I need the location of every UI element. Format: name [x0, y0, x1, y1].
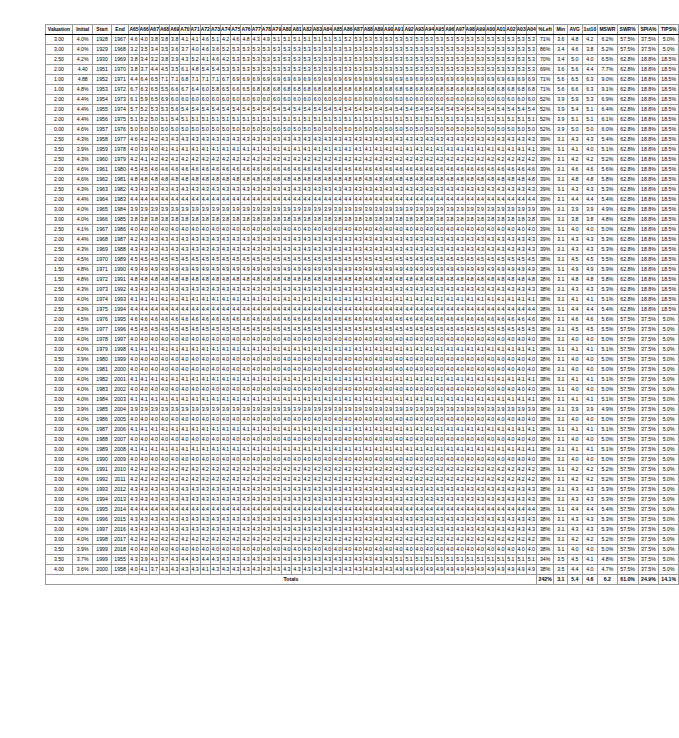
cell-age-a04[interactable]: 4.0: [526, 355, 536, 365]
cell-age-a01[interactable]: 4.1: [496, 145, 506, 155]
cell-age-a71[interactable]: 4.1: [190, 445, 200, 455]
cell-age-a85[interactable]: 6.0: [333, 95, 343, 105]
cell-age-a95[interactable]: 4.8: [435, 175, 445, 185]
cell-age-a71[interactable]: 4.0: [190, 385, 200, 395]
cell-age-a02[interactable]: 4.4: [506, 305, 516, 315]
cell-age-a66[interactable]: 4.0: [139, 545, 149, 555]
cell-age-a78[interactable]: 4.1: [261, 345, 271, 355]
cell-age-a71[interactable]: 4.4: [190, 305, 200, 315]
cell-avg[interactable]: 5.0: [568, 125, 582, 135]
cell-min[interactable]: 3.4: [554, 55, 568, 65]
cell-age-a72[interactable]: 4.1: [200, 145, 210, 155]
cell-age-a71[interactable]: 4.2: [190, 475, 200, 485]
cell-age-a95[interactable]: 3.8: [435, 215, 445, 225]
cell-age-a77[interactable]: 5.0: [251, 125, 261, 135]
cell-age-a97[interactable]: 6.9: [455, 75, 465, 85]
cell-age-a70[interactable]: 4.6: [180, 165, 190, 175]
cell-age-a65[interactable]: 4.2: [129, 155, 139, 165]
cell-age-a70[interactable]: 4.2: [180, 475, 190, 485]
cell-age-a02[interactable]: 5.3: [506, 65, 516, 75]
cell-age-a95[interactable]: 4.0: [435, 455, 445, 465]
cell-age-a03[interactable]: 4.6: [516, 165, 526, 175]
cell-end-year[interactable]: 2015: [111, 515, 129, 525]
cell-age-a75[interactable]: 5.3: [231, 65, 241, 75]
cell-age-a97[interactable]: 4.2: [455, 535, 465, 545]
cell-age-a02[interactable]: 5.3: [506, 55, 516, 65]
cell-age-a88[interactable]: 6.8: [363, 85, 373, 95]
cell-pct-left[interactable]: 38%: [536, 525, 554, 535]
cell-age-a84[interactable]: 4.1: [322, 345, 332, 355]
cell-age-a93[interactable]: 4.3: [414, 485, 424, 495]
cell-age-a80[interactable]: 5.3: [282, 55, 292, 65]
cell-age-a77[interactable]: 4.3: [251, 565, 261, 575]
cell-age-a70[interactable]: 6.0: [180, 95, 190, 105]
cell-spia-pct[interactable]: 37.5%: [638, 485, 659, 495]
cell-age-a74[interactable]: 4.4: [221, 195, 231, 205]
cell-age-a65[interactable]: 4.3: [129, 245, 139, 255]
cell-end-year[interactable]: 1988: [111, 245, 129, 255]
cell-age-a91[interactable]: 4.4: [394, 195, 404, 205]
cell-age-a88[interactable]: 4.0: [363, 355, 373, 365]
cell-age-a94[interactable]: 4.3: [424, 485, 434, 495]
cell-age-a95[interactable]: 4.0: [435, 435, 445, 445]
cell-age-a74[interactable]: 3.9: [221, 205, 231, 215]
cell-age-a91[interactable]: 5.0: [394, 125, 404, 135]
cell-age-a65[interactable]: 4.3: [129, 185, 139, 195]
cell-age-a69[interactable]: 3.8: [170, 215, 180, 225]
cell-tips-pct[interactable]: 5.0%: [659, 315, 679, 325]
cell-age-a95[interactable]: 6.0: [435, 95, 445, 105]
cell-min[interactable]: 3.1: [554, 415, 568, 425]
cell-age-a85[interactable]: 4.3: [333, 525, 343, 535]
cell-age-a83[interactable]: 4.3: [312, 185, 322, 195]
cell-age-a04[interactable]: 4.8: [526, 175, 536, 185]
column-header-a74[interactable]: A74: [221, 25, 231, 35]
cell-min[interactable]: 3.6: [554, 65, 568, 75]
cell-age-a96[interactable]: 4.8: [445, 275, 455, 285]
cell-age-a75[interactable]: 4.2: [231, 465, 241, 475]
cell-min[interactable]: 3.1: [554, 175, 568, 185]
cell-first10[interactable]: 4.3: [582, 485, 598, 495]
cell-age-a91[interactable]: 4.3: [394, 515, 404, 525]
cell-tips-pct[interactable]: 5.0%: [659, 445, 679, 455]
cell-age-a81[interactable]: 4.5: [292, 325, 302, 335]
cell-avg[interactable]: 6.5: [568, 75, 582, 85]
cell-pct-left[interactable]: 38%: [536, 255, 554, 265]
cell-age-a82[interactable]: 4.1: [302, 345, 312, 355]
cell-age-a04[interactable]: 4.3: [526, 185, 536, 195]
cell-age-a77[interactable]: 5.4: [251, 105, 261, 115]
cell-age-a65[interactable]: 4.5: [129, 325, 139, 335]
cell-start-year[interactable]: 1988: [93, 435, 111, 445]
cell-age-a81[interactable]: 4.1: [292, 425, 302, 435]
cell-age-a99[interactable]: 4.4: [475, 505, 485, 515]
cell-age-a66[interactable]: 4.2: [139, 535, 149, 545]
cell-age-a04[interactable]: 5.3: [526, 45, 536, 55]
cell-swr-pct[interactable]: 57.5%: [617, 355, 638, 365]
cell-age-a74[interactable]: 4.2: [221, 465, 231, 475]
cell-age-a84[interactable]: 3.9: [322, 205, 332, 215]
cell-start-year[interactable]: 1951: [93, 65, 111, 75]
cell-age-a97[interactable]: 4.6: [455, 165, 465, 175]
cell-age-a84[interactable]: 4.3: [322, 135, 332, 145]
cell-age-a68[interactable]: 5.5: [159, 85, 169, 95]
cell-min[interactable]: 3.1: [554, 395, 568, 405]
cell-tips-pct[interactable]: 5.0%: [659, 385, 679, 395]
cell-age-a79[interactable]: 4.1: [272, 425, 282, 435]
cell-tips-pct[interactable]: 18.5%: [659, 155, 679, 165]
cell-avg[interactable]: 4.0: [568, 435, 582, 445]
cell-avg[interactable]: 4.1: [568, 295, 582, 305]
cell-age-a01[interactable]: 4.5: [496, 255, 506, 265]
cell-age-a04[interactable]: 4.1: [526, 145, 536, 155]
cell-age-a85[interactable]: 4.3: [333, 555, 343, 565]
cell-age-a82[interactable]: 5.3: [302, 55, 312, 65]
cell-age-a78[interactable]: 4.8: [261, 275, 271, 285]
cell-age-a89[interactable]: 4.8: [373, 175, 383, 185]
cell-age-a79[interactable]: 4.8: [272, 275, 282, 285]
cell-age-a86[interactable]: 4.4: [343, 305, 353, 315]
cell-age-a85[interactable]: 4.0: [333, 435, 343, 445]
cell-age-a90[interactable]: 6.8: [384, 85, 394, 95]
cell-age-a73[interactable]: 4.1: [210, 395, 220, 405]
cell-age-a70[interactable]: 4.3: [180, 485, 190, 495]
cell-age-a69[interactable]: 4.1: [170, 425, 180, 435]
cell-age-a93[interactable]: 4.8: [414, 275, 424, 285]
cell-age-a76[interactable]: 4.3: [241, 245, 251, 255]
